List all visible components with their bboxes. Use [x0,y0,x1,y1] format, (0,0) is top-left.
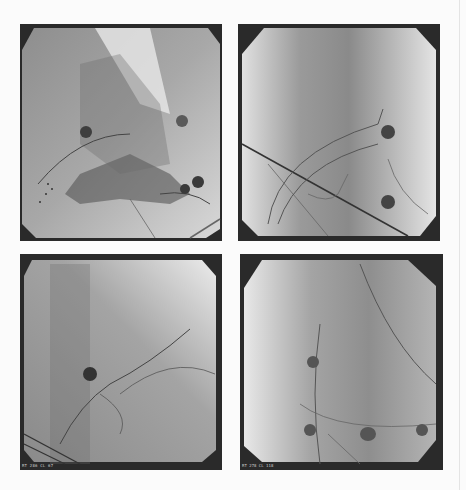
fluoro-panel-bottom-left: RT 286 CL 67 [20,254,222,470]
panel-caption: RT 278 CL 118 [242,463,274,468]
fluoro-panel-top-right [238,24,440,241]
fluoro-panel-top-left [20,24,222,241]
page-edge-rule [459,0,460,490]
panel-caption: RT 286 CL 67 [22,463,54,468]
fluoro-panel-bottom-right: RT 278 CL 118 [240,254,443,470]
